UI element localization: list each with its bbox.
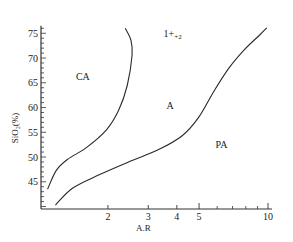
y-tick-label: 50	[28, 152, 38, 163]
x-tick-label: 3	[146, 211, 151, 222]
region-label-1: 1++2	[164, 28, 183, 41]
region-label-ca: CA	[76, 71, 91, 82]
y-tick-label: 60	[28, 102, 38, 113]
x-tick-label: 5	[197, 211, 202, 222]
y-tick-label: 75	[28, 28, 38, 39]
y-tick-label: 65	[28, 77, 38, 88]
region-label-a: A	[166, 100, 174, 111]
ca-a-boundary-curve	[48, 28, 133, 189]
y-tick-label: 70	[28, 53, 38, 64]
chart-svg: 45505560657075234510 CAAPA1++2 A.R SiO₂(…	[0, 0, 293, 242]
x-tick-label: 10	[263, 211, 273, 222]
region-label-pa: PA	[216, 139, 229, 150]
axes: 45505560657075234510	[28, 26, 273, 222]
x-tick-label: 2	[105, 211, 110, 222]
x-axis-title: A.R	[136, 223, 151, 233]
y-tick-label: 55	[28, 127, 38, 138]
a-pa-boundary-curve	[55, 28, 266, 205]
x-tick-label: 4	[174, 211, 179, 222]
region-labels: CAAPA1++2	[76, 28, 228, 149]
y-axis-title: SiO₂(%)	[10, 113, 20, 144]
boundary-curves	[48, 28, 267, 205]
y-tick-label: 45	[28, 176, 38, 187]
